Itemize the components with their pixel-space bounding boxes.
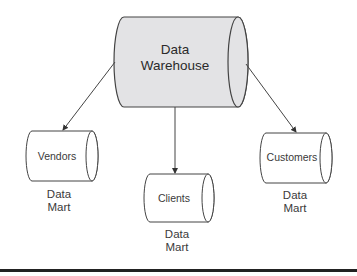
caption-line-1: Data [24,188,94,201]
customers-data-mart-caption: Data Mart [260,189,330,215]
vendors-data-mart-caption: Data Mart [24,188,94,214]
caption-line-2: Mart [260,202,330,215]
bottom-rule-divider [0,269,357,272]
data-warehouse-label: Data Warehouse [120,42,230,73]
caption-line-1: Data [260,189,330,202]
edge-warehouse-vendors [63,62,115,130]
customers-label: Customers [258,151,326,163]
vendors-label: Vendors [24,150,90,162]
label-line-1: Data [120,42,230,58]
caption-line-1: Data [142,228,212,241]
caption-line-2: Mart [24,201,94,214]
clients-data-mart-caption: Data Mart [142,228,212,254]
caption-line-2: Mart [142,241,212,254]
edge-warehouse-customers [246,64,296,132]
clients-label: Clients [142,192,206,204]
label-line-2: Warehouse [120,58,230,74]
